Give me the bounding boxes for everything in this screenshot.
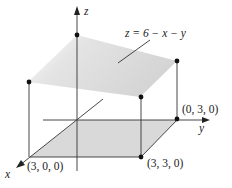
point-0-3-0 bbox=[175, 117, 180, 122]
z-axis-label: z bbox=[83, 5, 89, 17]
point-label-3-0-0: (3, 0, 0) bbox=[27, 160, 64, 173]
x-axis-label: x bbox=[4, 168, 11, 180]
point-label-0-3-0: (0, 3, 0) bbox=[182, 103, 219, 116]
point-3-3-0-top bbox=[139, 95, 144, 100]
plane-surface bbox=[28, 35, 177, 97]
point-0-0-6 bbox=[75, 33, 80, 38]
point-3-3-0 bbox=[139, 155, 144, 160]
point-0-3-3 bbox=[175, 59, 180, 64]
y-axis-label: y bbox=[198, 122, 205, 135]
base-region bbox=[30, 120, 177, 157]
z-axis-arrow-icon bbox=[74, 6, 80, 15]
equation-label: z = 6 − x − y bbox=[124, 27, 187, 40]
diagram-canvas: z y x z = 6 − x − y (0, 3, 0) (3, 3, 0) … bbox=[0, 0, 232, 188]
point-3-0-3 bbox=[27, 80, 32, 85]
x-axis-arrow-icon bbox=[16, 160, 25, 168]
point-label-3-3-0: (3, 3, 0) bbox=[147, 157, 184, 170]
